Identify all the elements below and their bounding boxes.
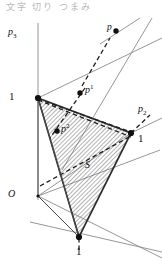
axis-label-p2: p2 — [138, 104, 147, 114]
point-label-p: p — [107, 23, 112, 33]
ray-upper-right — [100, 18, 140, 44]
dot-unit-p1 — [76, 234, 82, 240]
ray-p3-to-p — [38, 38, 162, 98]
dot-unit-p3 — [35, 95, 41, 101]
tick-label-bottom-one: 1 — [76, 246, 82, 257]
ray-bottom — [30, 222, 162, 252]
tick-label-right-one: 1 — [138, 133, 144, 144]
dot-unit-p2 — [128, 130, 134, 136]
dot-p — [113, 28, 118, 33]
dot-p-sup-2 — [54, 128, 59, 133]
point-label-p-sup-2: p2 — [61, 124, 70, 134]
dash-p1-to-p — [82, 38, 110, 86]
point-label-p-sup-1: p1 — [85, 85, 94, 95]
ray-past-unit-p2 — [131, 118, 162, 133]
origin-label: O — [8, 189, 15, 199]
axis-p1-ray — [38, 196, 162, 258]
figure-canvas: 文字 切り つまみ — [0, 0, 162, 265]
region-label-S: S — [85, 160, 90, 170]
tick-label-vertical-one: 1 — [9, 91, 15, 102]
dot-p-sup-1 — [77, 90, 82, 95]
dot-origin — [36, 194, 39, 197]
dash-to-p2-label — [131, 115, 150, 133]
axis-label-p3: p3 — [8, 27, 17, 37]
